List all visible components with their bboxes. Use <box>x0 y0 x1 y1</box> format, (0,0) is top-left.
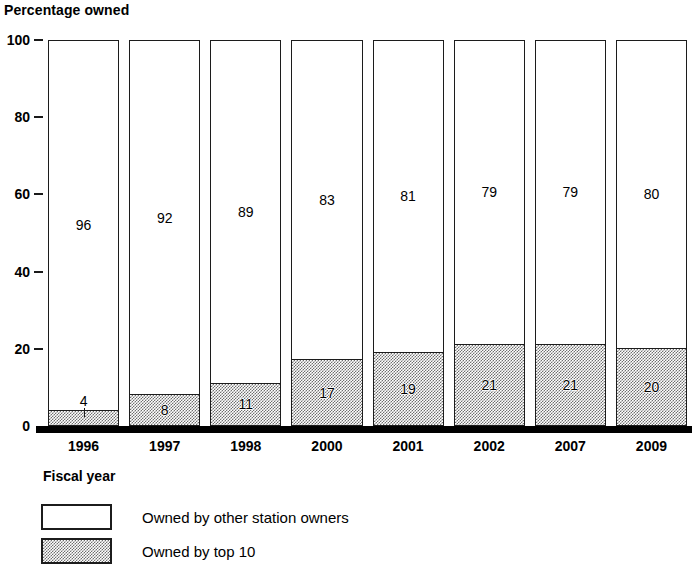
bar-segment-other-station-owners-2002: 79 <box>455 41 524 344</box>
bar-2007: 7921 <box>535 40 606 426</box>
bar-value-label-bottom-1997: 8 <box>161 403 169 417</box>
y-axis-tick-40: 40 <box>14 264 30 280</box>
y-axis-tickmark-20 <box>34 348 43 350</box>
legend-label-top-10: Owned by top 10 <box>142 543 255 560</box>
x-axis-tick-1998: 1998 <box>230 438 261 454</box>
bar-value-label-top-1996: 96 <box>76 218 92 232</box>
bar-segment-top-10-2001: 19 <box>374 352 443 425</box>
bar-2001: 8119 <box>373 40 444 426</box>
bar-value-label-top-1997: 92 <box>157 211 173 225</box>
y-axis-tick-80: 80 <box>14 109 30 125</box>
y-axis: 100806040200 <box>0 40 43 426</box>
bar-segment-other-station-owners-1996: 96 <box>49 41 118 410</box>
legend-item-other-station-owners: Owned by other station owners <box>41 500 349 534</box>
x-axis-tick-1996: 1996 <box>68 438 99 454</box>
bar-value-label-top-1998: 89 <box>238 205 254 219</box>
y-axis-tickmark-40 <box>34 271 43 273</box>
bar-value-label-bottom-2000: 17 <box>319 386 335 400</box>
legend-label-other-station-owners: Owned by other station owners <box>142 509 349 526</box>
bar-1998: 8911 <box>210 40 281 426</box>
x-axis-title: Fiscal year <box>43 468 115 484</box>
bar-value-label-bottom-2001: 19 <box>400 382 416 396</box>
bar-1997: 928 <box>129 40 200 426</box>
y-axis-title: Percentage owned <box>4 2 129 18</box>
bar-value-label-top-2000: 83 <box>319 193 335 207</box>
bar-segment-top-10-1996: 4 <box>49 410 118 425</box>
x-axis-tick-2009: 2009 <box>636 438 667 454</box>
bar-value-label-bottom-1998: 11 <box>239 397 254 411</box>
bar-value-label-top-2007: 79 <box>563 185 579 199</box>
y-axis-tick-0: 0 <box>22 418 30 434</box>
y-axis-tick-60: 60 <box>14 186 30 202</box>
bar-value-label-top-2002: 79 <box>481 185 497 199</box>
bar-segment-top-10-1997: 8 <box>130 394 199 425</box>
y-axis-tick-100: 100 <box>7 32 30 48</box>
y-axis-tickmark-60 <box>34 193 43 195</box>
bar-segment-other-station-owners-1997: 92 <box>130 41 199 394</box>
bar-segment-top-10-1998: 11 <box>211 383 280 425</box>
bar-value-label-top-2001: 81 <box>400 189 416 203</box>
x-axis-tick-2001: 2001 <box>392 438 423 454</box>
y-axis-tickmark-100 <box>34 39 43 41</box>
bar-segment-top-10-2007: 21 <box>536 344 605 425</box>
bar-segment-top-10-2000: 17 <box>292 359 361 425</box>
bar-segment-other-station-owners-2001: 81 <box>374 41 443 352</box>
y-axis-tick-20: 20 <box>14 341 30 357</box>
bar-2000: 8317 <box>291 40 362 426</box>
legend: Owned by other station owners Owned by t… <box>41 500 349 568</box>
bar-segment-top-10-2009: 20 <box>617 348 686 425</box>
plot-area: 964928891183178119792179218020 <box>43 40 692 426</box>
x-axis-tick-1997: 1997 <box>149 438 180 454</box>
bar-segment-other-station-owners-2007: 79 <box>536 41 605 344</box>
legend-item-top-10: Owned by top 10 <box>41 534 349 568</box>
bar-2002: 7921 <box>454 40 525 426</box>
legend-swatch-white <box>41 504 112 530</box>
x-axis-tick-2002: 2002 <box>474 438 505 454</box>
y-axis-tickmark-80 <box>34 116 43 118</box>
bar-2009: 8020 <box>616 40 687 426</box>
bar-value-leader-1996 <box>84 408 85 417</box>
bar-value-label-bottom-2007: 21 <box>563 378 579 392</box>
x-axis-tick-2000: 2000 <box>311 438 342 454</box>
legend-swatch-gray <box>41 538 112 564</box>
bar-segment-other-station-owners-1998: 89 <box>211 41 280 383</box>
x-axis-tick-labels: 19961997199820002001200220072009 <box>43 438 692 460</box>
bar-value-label-bottom-2002: 21 <box>481 378 497 392</box>
bar-segment-top-10-2002: 21 <box>455 344 524 425</box>
x-axis-baseline <box>36 426 692 433</box>
bar-1996: 964 <box>48 40 119 426</box>
bar-segment-other-station-owners-2009: 80 <box>617 41 686 348</box>
x-axis-tick-2007: 2007 <box>555 438 586 454</box>
bar-value-label-bottom-1996: 4 <box>80 394 88 408</box>
bar-value-label-top-2009: 80 <box>644 187 660 201</box>
bar-value-label-bottom-2009: 20 <box>644 380 660 394</box>
bar-segment-other-station-owners-2000: 83 <box>292 41 361 359</box>
